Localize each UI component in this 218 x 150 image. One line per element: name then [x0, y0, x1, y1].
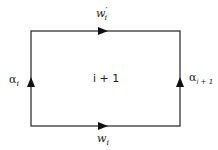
bottom-label-base: w [97, 132, 106, 145]
edge-label-top: w′i [96, 8, 107, 19]
arrow-up-left-icon [27, 77, 35, 87]
edge-label-left: αi [9, 74, 19, 85]
right-label-sub: i + 1 [196, 78, 213, 86]
edge-label-bottom: wi [97, 133, 109, 144]
region-label: i + 1 [93, 73, 119, 84]
left-label-sub: i [16, 79, 19, 88]
arrow-up-right-icon [176, 77, 184, 87]
arrow-right-top-icon [98, 27, 108, 35]
bottom-label-sub: i [106, 138, 109, 147]
arrow-right-bottom-icon [98, 122, 108, 130]
edge-label-right: αi + 1 [189, 72, 213, 83]
top-label-sub: i [104, 13, 107, 22]
